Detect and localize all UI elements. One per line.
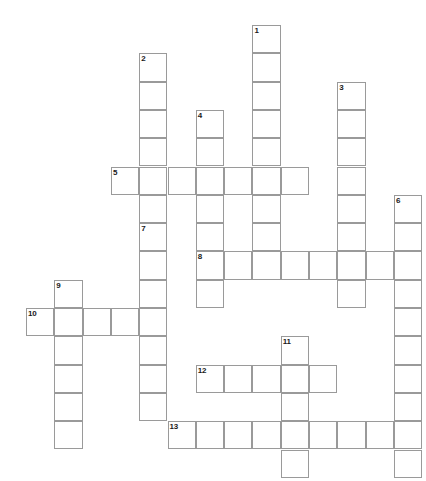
clue-number-3: 3 bbox=[339, 83, 343, 93]
crossword-cell[interactable] bbox=[281, 365, 309, 393]
crossword-cell[interactable] bbox=[281, 251, 309, 279]
crossword-cell[interactable] bbox=[224, 167, 252, 195]
clue-number-5: 5 bbox=[113, 168, 117, 178]
clue-number-9: 9 bbox=[56, 281, 60, 291]
crossword-cell[interactable] bbox=[54, 365, 82, 393]
crossword-cell[interactable] bbox=[394, 393, 422, 421]
crossword-cell[interactable] bbox=[224, 251, 252, 279]
crossword-cell[interactable] bbox=[139, 110, 167, 138]
crossword-cell[interactable] bbox=[196, 280, 224, 308]
crossword-cell[interactable] bbox=[337, 167, 365, 195]
crossword-cell[interactable] bbox=[337, 251, 365, 279]
crossword-cell[interactable] bbox=[196, 167, 224, 195]
crossword-cell[interactable] bbox=[337, 421, 365, 449]
clue-number-2: 2 bbox=[141, 54, 145, 64]
clue-number-6: 6 bbox=[396, 196, 400, 206]
crossword-cell[interactable] bbox=[139, 365, 167, 393]
clue-number-13: 13 bbox=[170, 422, 179, 432]
crossword-cell[interactable] bbox=[139, 167, 167, 195]
crossword-cell[interactable] bbox=[83, 308, 111, 336]
crossword-cell[interactable] bbox=[196, 138, 224, 166]
crossword-cell[interactable] bbox=[168, 167, 196, 195]
crossword-cell[interactable] bbox=[196, 223, 224, 251]
crossword-cell[interactable] bbox=[139, 393, 167, 421]
clue-number-1: 1 bbox=[254, 26, 258, 36]
crossword-cell[interactable] bbox=[252, 53, 280, 81]
crossword-grid[interactable]: 12345678910111213 bbox=[0, 0, 426, 481]
crossword-cell[interactable] bbox=[111, 308, 139, 336]
crossword-cell[interactable] bbox=[139, 138, 167, 166]
crossword-cell[interactable] bbox=[139, 195, 167, 223]
crossword-cell[interactable] bbox=[337, 223, 365, 251]
crossword-cell[interactable] bbox=[252, 138, 280, 166]
clue-number-10: 10 bbox=[28, 309, 37, 319]
crossword-cell[interactable] bbox=[139, 82, 167, 110]
crossword-cell[interactable] bbox=[366, 421, 394, 449]
crossword-cell[interactable] bbox=[54, 336, 82, 364]
clue-number-12: 12 bbox=[198, 366, 207, 376]
crossword-cell[interactable] bbox=[252, 82, 280, 110]
crossword-cell[interactable] bbox=[309, 251, 337, 279]
crossword-cell[interactable] bbox=[252, 223, 280, 251]
crossword-cell[interactable] bbox=[54, 393, 82, 421]
crossword-cell[interactable] bbox=[366, 251, 394, 279]
clue-number-4: 4 bbox=[198, 111, 202, 121]
crossword-cell[interactable] bbox=[224, 421, 252, 449]
crossword-cell[interactable] bbox=[196, 421, 224, 449]
crossword-cell[interactable] bbox=[394, 280, 422, 308]
crossword-cell[interactable] bbox=[139, 280, 167, 308]
crossword-cell[interactable] bbox=[394, 450, 422, 478]
crossword-cell[interactable] bbox=[139, 336, 167, 364]
crossword-cell[interactable] bbox=[281, 421, 309, 449]
crossword-cell[interactable] bbox=[394, 223, 422, 251]
crossword-cell[interactable] bbox=[281, 393, 309, 421]
crossword-cell[interactable] bbox=[394, 365, 422, 393]
crossword-cell[interactable] bbox=[252, 365, 280, 393]
crossword-cell[interactable] bbox=[139, 308, 167, 336]
crossword-cell[interactable] bbox=[309, 365, 337, 393]
crossword-cell[interactable] bbox=[252, 251, 280, 279]
crossword-cell[interactable] bbox=[394, 308, 422, 336]
crossword-cell[interactable] bbox=[337, 195, 365, 223]
crossword-cell[interactable] bbox=[337, 110, 365, 138]
crossword-cell[interactable] bbox=[394, 421, 422, 449]
crossword-cell[interactable] bbox=[252, 167, 280, 195]
clue-number-8: 8 bbox=[198, 252, 202, 262]
crossword-cell[interactable] bbox=[54, 308, 82, 336]
crossword-cell[interactable] bbox=[196, 195, 224, 223]
crossword-cell[interactable] bbox=[394, 251, 422, 279]
clue-number-7: 7 bbox=[141, 224, 145, 234]
crossword-cell[interactable] bbox=[252, 110, 280, 138]
crossword-cell[interactable] bbox=[224, 365, 252, 393]
crossword-cell[interactable] bbox=[337, 280, 365, 308]
crossword-cell[interactable] bbox=[337, 138, 365, 166]
crossword-cell[interactable] bbox=[252, 421, 280, 449]
crossword-cell[interactable] bbox=[281, 167, 309, 195]
crossword-cell[interactable] bbox=[394, 336, 422, 364]
crossword-cell[interactable] bbox=[252, 195, 280, 223]
crossword-cell[interactable] bbox=[281, 450, 309, 478]
clue-number-11: 11 bbox=[283, 337, 291, 347]
crossword-puzzle: 12345678910111213 bbox=[0, 0, 426, 481]
crossword-cell[interactable] bbox=[54, 421, 82, 449]
crossword-cell[interactable] bbox=[309, 421, 337, 449]
crossword-cell[interactable] bbox=[139, 251, 167, 279]
